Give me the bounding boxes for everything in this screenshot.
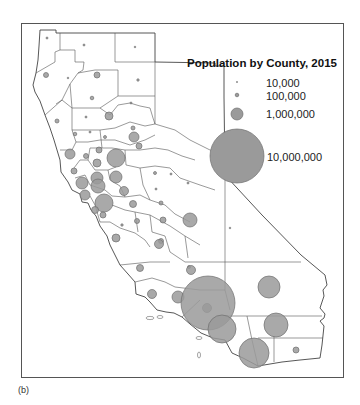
county-population-circle <box>130 201 137 208</box>
county-population-circle <box>107 149 125 167</box>
county-population-circle <box>155 188 157 190</box>
county-population-circle <box>93 159 101 167</box>
county-population-circle <box>73 132 77 136</box>
legend-circle <box>210 129 264 183</box>
county-population-circle <box>187 182 189 184</box>
county-population-circle <box>160 217 166 223</box>
legend-circle <box>235 93 239 97</box>
county-population-circle <box>110 171 122 183</box>
county-population-circle <box>239 338 269 368</box>
county-population-circle <box>120 187 129 196</box>
county-population-circle <box>44 73 49 78</box>
county-population-circle <box>229 227 231 229</box>
county-population-circle <box>155 240 164 249</box>
county-population-circle <box>104 136 107 139</box>
county-population-circle <box>83 44 85 46</box>
county-population-circle <box>85 116 87 118</box>
county-population-circle <box>187 266 196 275</box>
county-population-circle <box>94 72 100 78</box>
county-population-circle <box>76 177 88 189</box>
legend-title: Population by County, 2015 <box>187 57 337 69</box>
legend-label-1m: 1,000,000 <box>266 108 315 120</box>
county-population-circle <box>112 234 120 242</box>
county-population-circle <box>159 201 163 205</box>
county-population-circle <box>71 168 77 174</box>
county-population-circle <box>65 149 75 159</box>
legend-label-10k: 10,000 <box>266 77 300 89</box>
county-population-circle <box>130 102 132 104</box>
county-population-circle <box>100 212 106 218</box>
county-population-circle <box>134 46 136 48</box>
legend-label-10m: 10,000,000 <box>267 151 322 163</box>
county-population-circle <box>46 37 48 39</box>
county-population-circle <box>129 132 139 142</box>
county-population-circle <box>80 190 90 200</box>
county-population-circle <box>148 290 157 299</box>
county-population-circle <box>131 126 135 130</box>
county-population-circle <box>91 179 105 193</box>
county-population-circle <box>183 213 197 227</box>
county-population-circle <box>90 96 94 100</box>
county-population-circle <box>67 77 69 79</box>
county-population-circle <box>208 315 236 343</box>
county-population-circle <box>136 143 142 149</box>
county-population-circle <box>293 347 299 353</box>
figure-caption: (b) <box>18 385 29 395</box>
legend-label-100k: 100,000 <box>266 90 306 102</box>
county-population-circle <box>258 276 280 298</box>
county-population-circle <box>84 154 89 159</box>
county-population-circle <box>137 265 144 272</box>
county-population-circle <box>105 112 113 120</box>
legend-circle <box>236 81 237 82</box>
county-population-circle <box>92 207 99 214</box>
county-population-circle <box>121 224 123 226</box>
county-population-circle <box>55 119 59 123</box>
county-population-circle <box>170 173 172 175</box>
county-population-circle <box>135 219 140 224</box>
county-population-circle <box>96 147 102 153</box>
legend-circle <box>231 108 243 120</box>
county-population-circle <box>154 172 157 175</box>
county-population-circle <box>89 131 91 133</box>
county-population-circle <box>264 313 288 337</box>
county-population-circle <box>137 79 139 81</box>
